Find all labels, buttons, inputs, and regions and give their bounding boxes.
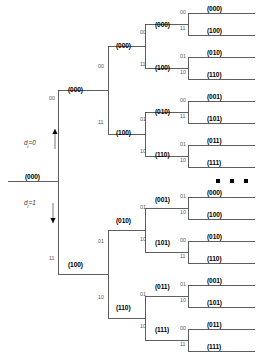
- bit-label-level1-0: 00: [49, 96, 55, 101]
- node-label-leaf-7: (111): [207, 160, 221, 167]
- node-label-level3-1: (100): [155, 65, 170, 72]
- node-label-level3-5: (101): [155, 240, 170, 247]
- node-label-leaf-2: (010): [207, 50, 222, 57]
- node-label-leaf-0: (000): [207, 6, 222, 13]
- node-label-leaf-14: (011): [207, 322, 222, 329]
- node-label-level3-2: (010): [155, 109, 170, 116]
- axis-label-d-zero: dj=0: [24, 140, 36, 149]
- bit-label-level3-7: 10: [140, 324, 146, 329]
- bit-label-leaf-14: 00: [180, 326, 186, 331]
- ellipsis-dot-1: [230, 179, 234, 183]
- node-label-leaf-13: (101): [207, 300, 222, 307]
- node-label-level3-4: (001): [155, 197, 170, 204]
- node-label-level2-1: (100): [116, 130, 131, 137]
- node-label-leaf-4: (001): [207, 94, 222, 101]
- bit-label-level3-1: 11: [140, 62, 146, 67]
- tree-edges: [0, 0, 269, 360]
- node-label-leaf-8: (000): [207, 190, 222, 197]
- bit-label-level1-1: 11: [49, 256, 55, 261]
- bit-label-level3-0: 00: [140, 30, 146, 35]
- node-label-leaf-6: (011): [207, 138, 222, 145]
- bit-label-leaf-6: 01: [180, 142, 186, 147]
- axis-label-value: =0: [29, 139, 36, 146]
- ellipsis-dot-2: [244, 179, 248, 183]
- node-label-level3-3: (110): [155, 152, 170, 159]
- ellipsis-dot-0: [216, 179, 220, 183]
- node-label-level2-3: (110): [116, 305, 131, 312]
- node-label-level1-1: (100): [68, 262, 83, 269]
- bit-label-level2-2: 01: [98, 239, 104, 244]
- bit-label-level2-1: 11: [98, 120, 104, 125]
- node-label-leaf-12: (001): [207, 278, 222, 285]
- bit-label-level3-2: 01: [140, 117, 146, 122]
- figure-canvas: (000)(000)00(100)11(000)00(100)11(010)01…: [0, 0, 269, 360]
- axis-label-value: =1: [29, 199, 36, 206]
- bit-label-level2-3: 10: [98, 295, 104, 300]
- axis-label-d-one: dj=1: [24, 200, 36, 209]
- bit-label-leaf-2: 01: [180, 54, 186, 59]
- node-label-level3-0: (000): [155, 22, 170, 29]
- bit-label-leaf-8: 01: [180, 194, 186, 199]
- bit-label-level3-6: 01: [140, 292, 146, 297]
- bit-label-leaf-13: 10: [180, 298, 186, 303]
- node-label-leaf-9: (100): [207, 212, 222, 219]
- node-label-leaf-15: (111): [207, 344, 221, 351]
- bit-label-leaf-7: 10: [180, 158, 186, 163]
- bit-label-leaf-3: 10: [180, 70, 186, 75]
- bit-label-level3-5: 10: [140, 237, 146, 242]
- axis-arrow-head-d-one: [50, 218, 55, 223]
- bit-label-leaf-9: 10: [180, 210, 186, 215]
- bit-label-level2-0: 00: [98, 64, 104, 69]
- node-label-level3-6: (011): [155, 284, 170, 291]
- bit-label-level3-3: 10: [140, 149, 146, 154]
- bit-label-leaf-11: 11: [180, 254, 186, 259]
- node-label-leaf-1: (100): [207, 28, 222, 35]
- bit-label-leaf-1: 11: [180, 26, 186, 31]
- bit-label-level3-4: 01: [140, 205, 146, 210]
- bit-label-leaf-15: 11: [180, 342, 186, 347]
- bit-label-leaf-12: 01: [180, 282, 186, 287]
- node-label-leaf-5: (101): [207, 116, 222, 123]
- node-label-level2-0: (000): [116, 43, 131, 50]
- node-label-level2-2: (010): [116, 218, 131, 225]
- node-label-leaf-10: (010): [207, 234, 222, 241]
- node-label-leaf-11: (110): [207, 256, 222, 263]
- node-label-level3-7: (111): [155, 327, 169, 334]
- bit-label-leaf-10: 00: [180, 238, 186, 243]
- node-label-level1-0: (000): [68, 87, 83, 94]
- bit-label-leaf-4: 00: [180, 98, 186, 103]
- node-label-leaf-3: (110): [207, 72, 222, 79]
- axis-arrow-head-d-zero: [52, 129, 57, 134]
- node-label-root: (000): [25, 174, 40, 181]
- bit-label-leaf-0: 00: [180, 10, 186, 15]
- bit-label-leaf-5: 11: [180, 114, 186, 119]
